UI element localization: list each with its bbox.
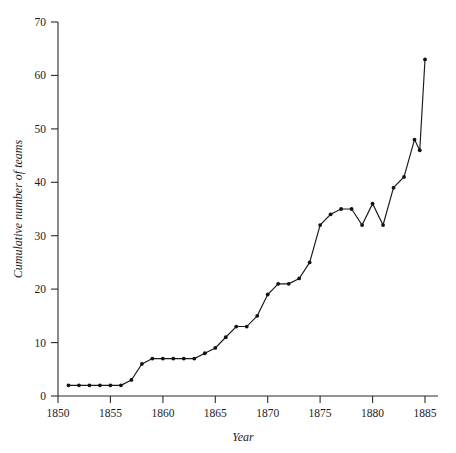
y-tick-label-0: 0 [40,390,46,402]
data-point [276,282,280,286]
y-tick-label-70: 70 [35,16,47,28]
data-point [266,293,270,297]
data-point [182,357,186,361]
data-point [140,362,144,366]
data-point [213,346,217,350]
data-point [339,207,343,211]
x-tick-label-1865: 1865 [204,407,227,419]
y-tick-label-50: 50 [35,123,47,135]
y-axis-title: Cumulative number of teams [11,140,25,279]
data-point [287,282,291,286]
data-point [67,383,71,387]
y-axis-tick-labels: 0 10 20 30 40 50 60 70 [35,16,47,402]
data-point [171,357,175,361]
data-point [224,335,228,339]
y-tick-label-10: 10 [35,337,47,349]
data-point [308,261,312,265]
data-point [245,325,249,329]
x-tick-label-1875: 1875 [309,407,332,419]
data-point [329,212,333,216]
data-point [350,207,354,211]
data-point [109,383,113,387]
data-point [88,383,92,387]
x-tick-label-1870: 1870 [256,407,279,419]
series-markers [67,58,427,388]
y-axis: 0 10 20 30 40 50 60 70 Cumulative number… [11,16,58,402]
y-tick-label-60: 60 [35,69,47,81]
y-tick-label-40: 40 [35,176,47,188]
x-axis-ticks [58,396,425,403]
data-point [371,202,375,206]
data-point [402,175,406,179]
data-point [392,186,396,190]
data-point [360,223,364,227]
x-axis-title: Year [232,430,254,444]
data-point [418,148,422,152]
data-point [130,378,134,382]
x-axis: 1850 1855 1860 1865 1870 1875 1880 1885 … [47,396,439,444]
data-point [381,223,385,227]
data-point [423,58,427,62]
data-point [150,357,154,361]
y-tick-label-20: 20 [35,283,47,295]
series-line-cumulative-teams [68,59,425,385]
data-point [318,223,322,227]
data-point [413,138,417,142]
y-tick-label-30: 30 [35,230,47,242]
data-point [98,383,102,387]
x-tick-label-1855: 1855 [99,407,122,419]
data-point [297,277,301,281]
data-series-group [67,58,427,388]
data-point [203,351,207,355]
data-point [192,357,196,361]
y-axis-ticks [51,22,58,396]
data-point [119,383,123,387]
x-tick-label-1860: 1860 [151,407,174,419]
chart-page: 0 10 20 30 40 50 60 70 Cumulative number… [0,0,456,453]
data-point [255,314,259,318]
x-tick-label-1850: 1850 [47,407,70,419]
x-tick-label-1880: 1880 [361,407,384,419]
x-axis-tick-labels: 1850 1855 1860 1865 1870 1875 1880 1885 [47,407,437,419]
data-point [234,325,238,329]
data-point [161,357,165,361]
x-tick-label-1885: 1885 [414,407,437,419]
line-chart: 0 10 20 30 40 50 60 70 Cumulative number… [0,0,456,453]
data-point [77,383,81,387]
